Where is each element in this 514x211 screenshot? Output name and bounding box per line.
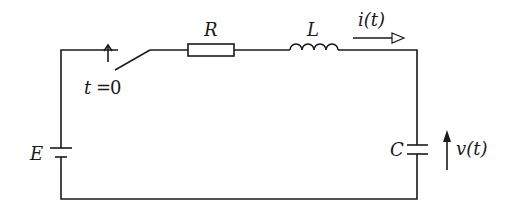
voltage-annotation: v(t) — [443, 130, 487, 170]
inductor-coil — [290, 44, 338, 50]
current-annotation: i(t) — [353, 9, 404, 43]
circuit-diagram: t = 0 R L i(t) E C v(t) — [0, 0, 514, 211]
wire-bottom — [61, 154, 417, 199]
capacitor: C — [390, 139, 428, 160]
capacitor-label: C — [390, 139, 404, 160]
source-label: E — [29, 143, 43, 164]
switch-label-var: t — [84, 77, 92, 98]
resistor: R — [188, 19, 234, 56]
switch-blade — [115, 50, 150, 70]
current-label: i(t) — [358, 9, 385, 30]
wire-inductor-to-capacitor — [338, 50, 417, 145]
voltage-label: v(t) — [456, 138, 487, 159]
wires — [61, 50, 417, 199]
switch-label-val: 0 — [110, 77, 121, 98]
switch: t = 0 — [84, 45, 150, 98]
inductor-label: L — [306, 19, 319, 40]
voltage-arrow-head-icon — [443, 130, 451, 142]
resistor-body — [188, 44, 234, 56]
current-arrow-head-icon — [392, 33, 404, 43]
voltage-source: E — [29, 143, 72, 164]
wire-top-left — [61, 50, 118, 148]
switch-label-eq: = — [96, 77, 111, 98]
inductor: L — [290, 19, 338, 50]
resistor-label: R — [203, 19, 218, 40]
switch-arrow-icon — [104, 45, 112, 62]
